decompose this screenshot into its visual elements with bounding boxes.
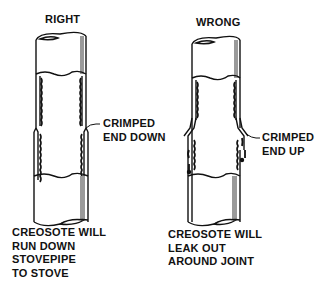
callout-crimped-end-down: CRIMPED END DOWN [103,117,166,144]
caption-right-way: CREOSOTE WILL RUN DOWN STOVEPIPE TO STOV… [12,226,106,280]
caption-line: RUN DOWN [12,240,106,254]
caption-line: AROUND JOINT [168,255,262,269]
caption-line: CREOSOTE WILL [168,228,262,242]
incorrect-joint-pipe [184,36,260,225]
caption-wrong-way: CREOSOTE WILL LEAK OUT AROUND JOINT [168,228,262,269]
caption-line: STOVEPIPE [12,253,106,267]
caption-line: CREOSOTE WILL [12,226,106,240]
callout-line: END UP [262,145,314,159]
callout-line: CRIMPED [103,117,166,131]
callout-line: CRIMPED [262,131,314,145]
heading-wrong: WRONG [196,16,240,30]
heading-right: RIGHT [45,13,80,27]
caption-line: TO STOVE [12,267,106,281]
caption-line: LEAK OUT [168,242,262,256]
callout-crimped-end-up: CRIMPED END UP [262,131,314,158]
correct-joint-pipe [34,32,100,225]
callout-line: END DOWN [103,131,166,145]
